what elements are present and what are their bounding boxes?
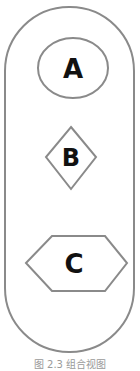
node-a-label: A	[63, 54, 83, 84]
figure-caption: 图 2.3 组合视图	[0, 359, 140, 371]
node-b-label: B	[62, 144, 80, 172]
node-c-label: C	[64, 249, 83, 279]
